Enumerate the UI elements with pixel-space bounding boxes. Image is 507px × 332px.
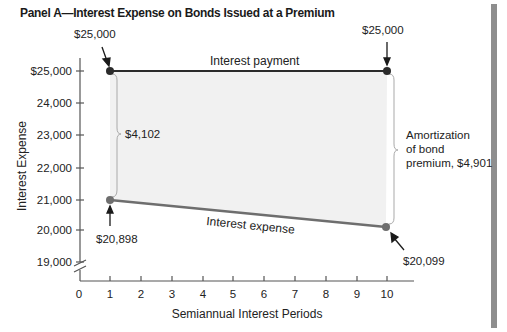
point-payment-period-10 [383,67,391,75]
svg-text:6: 6 [261,288,267,300]
label-top-left-value: $25,000 [74,28,116,40]
label-left-brace: $4,102 [125,128,160,140]
label-bottom-right-value: $20,099 [403,255,445,267]
interest-expense-chart: $25,000 24,000 23,000 22,000 21,000 20,0… [0,0,507,332]
svg-text:24,000: 24,000 [37,97,72,109]
svg-text:9: 9 [354,288,360,300]
label-bottom-left-value: $20,898 [96,233,138,245]
svg-text:8: 8 [323,288,329,300]
svg-text:21,000: 21,000 [37,194,72,206]
label-amortization-line1: Amortization [406,129,470,141]
svg-text:22,000: 22,000 [37,162,72,174]
point-payment-period-1 [106,67,114,75]
svg-text:3: 3 [169,288,175,300]
svg-text:1: 1 [107,288,113,300]
label-top-right-value: $25,000 [362,24,404,36]
svg-text:$25,000: $25,000 [30,65,72,77]
point-expense-period-10 [382,223,390,231]
svg-text:19,000: 19,000 [37,256,72,268]
svg-text:5: 5 [230,288,236,300]
svg-text:10: 10 [381,288,394,300]
x-tick-labels: 0 1 2 3 4 5 6 7 8 9 10 [76,288,394,300]
svg-text:7: 7 [292,288,298,300]
right-brace [389,74,398,224]
svg-text:4: 4 [200,288,207,300]
x-axis-title: Semiannual Interest Periods [172,307,323,321]
svg-text:0: 0 [76,288,82,300]
svg-text:23,000: 23,000 [37,129,72,141]
svg-text:20,000: 20,000 [37,224,72,236]
label-amortization-line2: of bond [406,143,444,155]
label-amortization-line3: premium, $4,901 [406,157,492,169]
y-tick-labels: $25,000 24,000 23,000 22,000 21,000 20,0… [30,65,72,268]
y-axis [74,58,86,281]
svg-text:2: 2 [138,288,144,300]
y-axis-title: Interest Expense [15,121,29,211]
x-axis [80,276,414,281]
point-expense-period-1 [106,196,114,204]
label-interest-payment: Interest payment [210,54,300,68]
